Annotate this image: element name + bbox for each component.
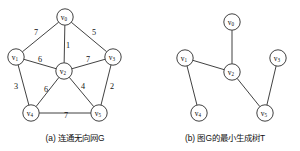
node-v2[interactable]: v2 (56, 63, 72, 79)
node-v5[interactable]: v5 (91, 105, 107, 121)
node-subscript-v0: 0 (231, 21, 234, 27)
graph-panel-a: 7516736427v0v1v2v3v4v5 (0, 0, 150, 131)
node-v0[interactable]: v0 (57, 9, 73, 25)
node-v4[interactable]: v4 (191, 105, 207, 121)
edge-v2-v5 (237, 78, 260, 106)
node-subscript-v5: 5 (98, 112, 101, 118)
caption-panel-b: (b) 图G的最小生成树T (150, 131, 300, 143)
node-subscript-v0: 0 (64, 16, 67, 22)
edge-v3-v5 (267, 66, 276, 105)
node-v1[interactable]: v1 (8, 49, 24, 65)
edge-v0-v2 (64, 25, 65, 63)
node-v4[interactable]: v4 (23, 105, 39, 121)
edge-weight-v2-v4: 6 (44, 85, 48, 94)
edge-weight-v2-v3: 7 (86, 55, 90, 64)
node-v0[interactable]: v0 (224, 14, 240, 30)
edge-v0-v3 (71, 22, 106, 52)
node-subscript-v3: 3 (277, 57, 280, 63)
node-subscript-v4: 4 (198, 112, 201, 118)
edge-v1-v4 (18, 65, 29, 105)
node-subscript-v2: 2 (231, 71, 234, 77)
node-v3[interactable]: v3 (270, 50, 286, 66)
node-v1[interactable]: v1 (177, 50, 193, 66)
edge-weight-v4-v5: 7 (64, 111, 68, 120)
edge-weight-v3-v5: 2 (110, 82, 114, 91)
edge-weight-v1-v4: 3 (14, 82, 18, 91)
figure-root: 7516736427v0v1v2v3v4v5 v0v1v2v3v4v5 (a) … (0, 0, 300, 151)
edge-weight-v2-v5: 4 (81, 82, 85, 91)
node-subscript-v1: 1 (15, 56, 18, 62)
node-v5[interactable]: v5 (257, 105, 273, 121)
node-subscript-v1: 1 (184, 57, 187, 63)
node-v2[interactable]: v2 (224, 64, 240, 80)
edge-weight-v0-v3: 5 (92, 28, 96, 37)
node-subscript-v3: 3 (112, 56, 115, 62)
edge-weight-v0-v2: 1 (66, 41, 70, 50)
edge-v0-v1 (22, 22, 58, 52)
node-subscript-v4: 4 (30, 112, 33, 118)
node-subscript-v2: 2 (63, 70, 66, 76)
edge-weight-v1-v2: 6 (38, 55, 42, 64)
caption-panel-a: (a) 连通无向网G (0, 131, 150, 143)
node-subscript-v5: 5 (264, 112, 267, 118)
edge-v1-v2 (193, 60, 224, 69)
graph-panel-b: v0v1v2v3v4v5 (150, 0, 300, 131)
edge-weight-v0-v1: 7 (34, 28, 38, 37)
edge-v1-v4 (187, 66, 197, 105)
node-v3[interactable]: v3 (105, 49, 121, 65)
